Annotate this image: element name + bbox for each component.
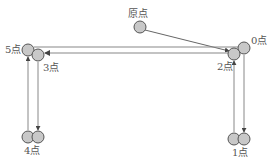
label-1: 1点	[232, 148, 248, 158]
edge-origin-to-2	[145, 30, 229, 51]
label-4: 4点	[24, 146, 40, 156]
label-5: 5点	[5, 45, 21, 55]
label-0: 0点	[251, 36, 267, 46]
label-2: 2点	[217, 62, 233, 72]
node-origin	[134, 21, 146, 33]
node-2	[228, 48, 240, 60]
label-origin: 原点	[128, 9, 148, 19]
node-3	[32, 49, 44, 61]
node-1-right	[238, 133, 250, 145]
label-3: 3点	[43, 63, 59, 73]
path-diagram: 原点 0点 2点 5点 3点 4点 1点	[0, 0, 269, 159]
node-4-right	[32, 131, 44, 143]
diagram-canvas	[0, 0, 269, 159]
